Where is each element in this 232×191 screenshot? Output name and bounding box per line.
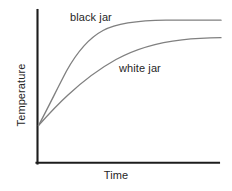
chart-plot-area <box>0 0 232 191</box>
chart-figure: black jar white jar Time Temperature <box>0 0 232 191</box>
y-axis-label-container: Temperature <box>13 42 29 148</box>
curve-white-jar <box>39 38 222 126</box>
series-label-white-jar: white jar <box>119 62 161 74</box>
series-label-black-jar: black jar <box>70 11 112 23</box>
x-axis-label: Time <box>0 169 232 181</box>
y-axis-label: Temperature <box>15 64 27 127</box>
